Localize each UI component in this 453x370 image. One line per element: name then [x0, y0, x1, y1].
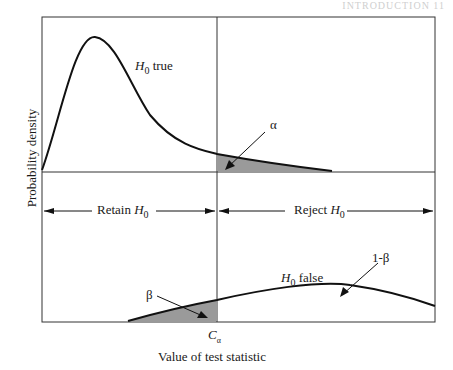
power-label: 1-β — [372, 250, 389, 266]
h0-true-label: H0 true — [135, 58, 173, 76]
h0-true-curve — [42, 37, 332, 171]
beta-label: β — [146, 287, 153, 303]
x-axis-label: Value of test statistic — [158, 349, 266, 365]
reject-h0-label: Reject H0 — [294, 202, 345, 220]
h0-false-label: H0 false — [281, 270, 323, 288]
retain-h0-label: Retain H0 — [97, 202, 149, 220]
hypothesis-test-diagram — [0, 0, 453, 370]
y-axis-label: Probability density — [24, 98, 40, 218]
critical-value-label: Cα — [208, 327, 221, 345]
alpha-label: α — [270, 117, 277, 133]
